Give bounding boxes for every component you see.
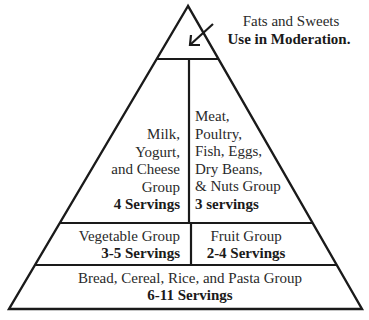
bread-label: Bread, Cereal, Rice, and Pasta Group	[40, 270, 340, 288]
bread-servings: 6-11 Servings	[40, 287, 340, 305]
meat-line-4: Dry Beans,	[195, 161, 305, 179]
vegetable-label: Vegetable Group	[60, 228, 180, 246]
vegetable-servings: 3-5 Servings	[60, 245, 180, 263]
milk-servings: 4 Servings	[80, 196, 180, 214]
milk-line-1: Milk,	[80, 126, 180, 144]
tip-label: Fats and Sweets	[228, 13, 354, 31]
tip-servings: Use in Moderation.	[222, 31, 356, 49]
fruit-servings: 2-4 Servings	[196, 245, 296, 263]
pyramid-triangle	[9, 6, 362, 309]
milk-group: Milk, Yogurt, and Cheese Group 4 Serving…	[80, 126, 180, 214]
fruit-label: Fruit Group	[196, 228, 296, 246]
meat-servings: 3 servings	[195, 196, 305, 214]
meat-line-3: Fish, Eggs,	[195, 143, 305, 161]
meat-line-1: Meat,	[195, 108, 305, 126]
meat-line-2: Poultry,	[195, 126, 305, 144]
milk-line-4: Group	[80, 179, 180, 197]
milk-line-2: Yogurt,	[80, 144, 180, 162]
meat-line-5: & Nuts Group	[195, 178, 305, 196]
meat-group: Meat, Poultry, Fish, Eggs, Dry Beans, & …	[195, 108, 305, 213]
milk-line-3: and Cheese	[80, 161, 180, 179]
